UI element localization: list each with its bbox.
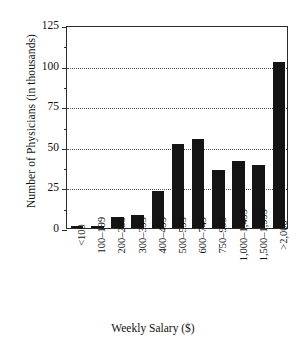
y-axis-tick [62, 27, 67, 28]
y-axis-minor-tick [64, 47, 67, 48]
x-axis-tick-label-wrap: 1,000–1,499 [227, 229, 247, 315]
x-axis-tick-label-wrap: 1,500–1,999 [248, 229, 268, 315]
y-axis-tick [62, 108, 67, 109]
y-axis-minor-tick [64, 129, 67, 130]
y-axis-tick [62, 149, 67, 150]
y-axis-minor-tick [64, 169, 67, 170]
x-axis-tick-label-wrap: 300–399 [127, 229, 147, 315]
x-axis-tick-label-wrap: 100–199 [86, 229, 106, 315]
gridline [67, 68, 287, 69]
bar [192, 139, 205, 228]
x-axis-title: Weekly Salary ($) [0, 322, 306, 334]
y-axis-tick-label: 0 [31, 223, 59, 235]
y-axis-tick-labels: 0255075100125 [29, 0, 59, 344]
x-axis-tick-label-wrap: <100 [66, 229, 86, 315]
x-axis-tick-label-wrap: >2,000 [268, 229, 288, 315]
y-axis-tick-label: 50 [31, 142, 59, 154]
plot-area [66, 26, 288, 229]
x-axis-tick-label-wrap: 400–499 [147, 229, 167, 315]
y-axis-minor-tick [64, 88, 67, 89]
gridline [67, 108, 287, 109]
bar [273, 62, 286, 228]
x-axis-tick-label-wrap: 750–999 [207, 229, 227, 315]
x-axis-tick-labels: <100100–199200–299300–399400–499500–5996… [66, 229, 288, 319]
x-axis-tick-label: >2,000 [278, 220, 289, 250]
x-axis-tick-label-wrap: 200–299 [106, 229, 126, 315]
y-axis-minor-tick [64, 210, 67, 211]
x-axis-tick-label-wrap: 500–599 [167, 229, 187, 315]
bar [172, 144, 185, 228]
y-axis-tick-label: 25 [31, 182, 59, 194]
y-axis-tick [62, 68, 67, 69]
y-axis-tick [62, 189, 67, 190]
y-axis-tick-label: 125 [31, 20, 59, 32]
y-axis-tick-label: 100 [31, 61, 59, 73]
y-axis-tick-label: 75 [31, 101, 59, 113]
x-axis-tick-label-wrap: 600–749 [187, 229, 207, 315]
bar-chart-figure: Number of Physicians (in thousands) 0255… [0, 0, 306, 344]
